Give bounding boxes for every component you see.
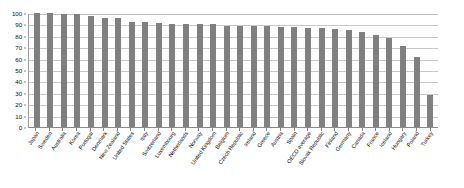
bar[interactable] <box>102 18 108 127</box>
bar[interactable] <box>373 35 379 127</box>
bar-slot <box>356 14 370 127</box>
x-label-slot: Canada <box>355 131 369 187</box>
x-label-slot: Slovak Republic <box>314 131 328 187</box>
bar[interactable] <box>319 28 325 127</box>
y-tick-label: 30 <box>15 91 22 97</box>
bar[interactable] <box>183 24 189 127</box>
bar-series <box>29 14 438 127</box>
bar[interactable] <box>210 24 216 127</box>
bar-slot <box>274 14 288 127</box>
bar-slot <box>261 14 275 127</box>
bar-slot <box>247 14 261 127</box>
bar[interactable] <box>142 22 148 127</box>
bar-slot <box>166 14 180 127</box>
bar[interactable] <box>346 30 352 127</box>
bar[interactable] <box>47 13 53 127</box>
y-tick-label: 80 <box>15 34 22 40</box>
bar-slot <box>301 14 315 127</box>
y-tick-mark <box>24 116 26 117</box>
bar-slot <box>139 14 153 127</box>
bar[interactable] <box>169 24 175 127</box>
y-tick-label: 90 <box>15 22 22 28</box>
bar[interactable] <box>197 24 203 127</box>
x-tick-label: Poland <box>407 131 421 148</box>
y-tick-mark <box>24 59 26 60</box>
bar[interactable] <box>251 26 257 127</box>
bar-slot <box>84 14 98 127</box>
y-tick-mark <box>24 36 26 37</box>
bar[interactable] <box>427 95 433 127</box>
bar-slot <box>57 14 71 127</box>
bar-slot <box>369 14 383 127</box>
y-tick-mark <box>24 48 26 49</box>
y-tick-mark <box>24 105 26 106</box>
plot-area <box>28 14 438 128</box>
bar[interactable] <box>332 29 338 127</box>
bar-slot <box>179 14 193 127</box>
bar-slot <box>152 14 166 127</box>
x-tick-label: Turkey <box>420 131 434 148</box>
bar-slot <box>233 14 247 127</box>
bar[interactable] <box>156 23 162 127</box>
y-axis: 1009080706050403020100 <box>0 14 26 128</box>
bar[interactable] <box>224 26 230 127</box>
bar[interactable] <box>88 16 94 127</box>
bar-slot <box>328 14 342 127</box>
bar[interactable] <box>237 26 243 127</box>
bar-slot <box>71 14 85 127</box>
bar[interactable] <box>34 13 40 127</box>
bar[interactable] <box>359 32 365 127</box>
bar-slot <box>396 14 410 127</box>
bar[interactable] <box>305 28 311 127</box>
y-tick-label: 10 <box>15 113 22 119</box>
x-label-slot: Iceland <box>382 131 396 187</box>
x-label-slot: Australia <box>56 131 70 187</box>
x-label-slot: United States <box>124 131 138 187</box>
bar[interactable] <box>129 22 135 127</box>
bar-slot <box>423 14 437 127</box>
y-tick-label: 60 <box>15 56 22 62</box>
bar-slot <box>125 14 139 127</box>
bar[interactable] <box>414 57 420 127</box>
bar[interactable] <box>400 46 406 127</box>
bar[interactable] <box>386 38 392 127</box>
x-label-slot: Germany <box>342 131 356 187</box>
x-tick-label: Austria <box>271 131 285 148</box>
x-tick-label: Italy <box>139 131 149 142</box>
x-label-slot: Turkey <box>423 131 437 187</box>
bar-slot <box>288 14 302 127</box>
bar-slot <box>220 14 234 127</box>
bar-slot <box>111 14 125 127</box>
y-tick-mark <box>24 14 26 15</box>
bar-slot <box>98 14 112 127</box>
y-tick-mark <box>24 128 26 129</box>
bar-slot <box>30 14 44 127</box>
y-tick-label: 100 <box>12 11 22 17</box>
x-label-slot: Netherlands <box>179 131 193 187</box>
x-axis-labels: JapanSwedenAustraliaKoreaPortugalDenmark… <box>28 131 438 187</box>
bar-slot <box>44 14 58 127</box>
y-tick-mark <box>24 82 26 83</box>
y-tick-label: 40 <box>15 79 22 85</box>
x-label-slot: Poland <box>410 131 424 187</box>
y-tick-mark <box>24 93 26 94</box>
bar[interactable] <box>291 27 297 127</box>
bar-slot <box>410 14 424 127</box>
bar-slot <box>342 14 356 127</box>
bar-slot <box>193 14 207 127</box>
x-label-slot: Portugal <box>83 131 97 187</box>
y-tick-mark <box>24 71 26 72</box>
x-label-slot: Ireland <box>247 131 261 187</box>
y-tick-mark <box>24 25 26 26</box>
bar-slot <box>315 14 329 127</box>
bar[interactable] <box>264 26 270 127</box>
x-label-slot: Sweden <box>43 131 57 187</box>
bar[interactable] <box>115 18 121 127</box>
y-tick-label: 50 <box>15 68 22 74</box>
bar-chart: 1009080706050403020100 JapanSwedenAustra… <box>0 0 464 188</box>
y-tick-label: 70 <box>15 45 22 51</box>
bar[interactable] <box>74 14 80 127</box>
bar-slot <box>383 14 397 127</box>
bar[interactable] <box>61 14 67 127</box>
bar[interactable] <box>278 27 284 127</box>
